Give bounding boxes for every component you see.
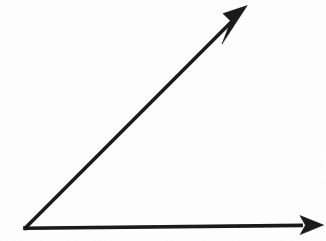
- angle-diagram-svg: Angle formed by two rays 45: [0, 0, 326, 241]
- angle-diagram-canvas: Angle formed by two rays 45: [0, 0, 326, 241]
- ray-vertex-point: [23, 226, 28, 230]
